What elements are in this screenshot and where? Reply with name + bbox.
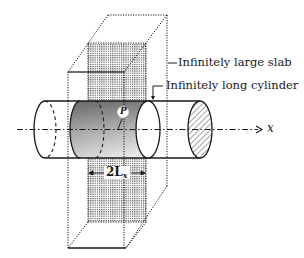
- dimension-2lx-label: 2Lx: [104, 166, 130, 179]
- slab-cylinder-diagram: [0, 0, 304, 258]
- cylinder-label: Infinitely long cylinder: [166, 80, 298, 92]
- cylinder-label-arrowhead-icon: [151, 96, 155, 100]
- point-p-label: P: [120, 107, 127, 116]
- slab-label: Infinitely large slab: [178, 57, 292, 69]
- cylinder-label-leader: [153, 86, 163, 99]
- x-axis-label: x: [267, 122, 274, 134]
